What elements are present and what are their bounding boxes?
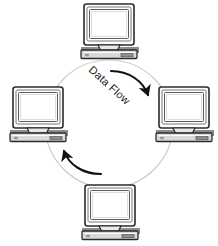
clockwise-arrow-bottom-left bbox=[64, 151, 101, 174]
computer-node-right[interactable] bbox=[156, 87, 214, 142]
data-flow-label: Data Flow bbox=[87, 63, 133, 106]
computer-node-top[interactable] bbox=[81, 4, 139, 59]
data-flow-label-text: Data Flow bbox=[87, 63, 133, 106]
ring-network-diagram: Data Flow bbox=[0, 0, 218, 246]
diagram-canvas: Data Flow bbox=[0, 0, 218, 246]
computer-node-bottom[interactable] bbox=[82, 185, 140, 240]
computer-node-left[interactable] bbox=[10, 87, 68, 142]
